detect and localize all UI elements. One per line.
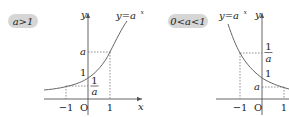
svg-text:a: a xyxy=(92,86,98,97)
y-tick-a-left: a xyxy=(80,46,86,57)
condition-badge-left: a>1 xyxy=(8,14,38,28)
y-tick-1-left: 1 xyxy=(80,67,86,78)
condition-badge-right: 0<a<1 xyxy=(168,14,208,28)
svg-text:x: x xyxy=(244,8,248,15)
y-axis-label-right: y xyxy=(254,9,261,20)
x-tick-1-left: 1 xyxy=(107,102,113,113)
function-label-left: y=a x xyxy=(115,8,145,21)
condition-label-right: 0<a<1 xyxy=(170,16,205,27)
origin-label-left: O xyxy=(80,102,88,113)
svg-text:x: x xyxy=(141,8,145,15)
y-tick-inv-a-left: 1 a xyxy=(91,75,99,97)
x-tick-minus1-left: −1 xyxy=(59,102,74,113)
x-tick-minus1-right: −1 xyxy=(233,102,248,113)
curve-decreasing xyxy=(228,24,289,89)
right-graph: 0<a<1 y=a x y 1 a 1 a −1 O 1 xyxy=(168,8,289,115)
svg-text:1: 1 xyxy=(91,75,97,86)
x-axis-label-left: x xyxy=(138,101,144,112)
y-tick-1-right: 1 xyxy=(265,68,271,79)
x-tick-1-right: 1 xyxy=(281,102,287,113)
origin-label-right: O xyxy=(254,102,262,113)
exponential-graphs-diagram: a>1 y x y=a x a 1 1 a −1 O 1 xyxy=(0,0,289,117)
svg-text:1: 1 xyxy=(265,41,271,52)
svg-text:y=a: y=a xyxy=(115,10,136,21)
function-label-right: y=a x xyxy=(218,8,248,21)
condition-label-left: a>1 xyxy=(13,16,34,27)
svg-text:a: a xyxy=(266,53,272,64)
y-axis-label-left: y xyxy=(80,9,87,20)
y-tick-a-right: a xyxy=(254,81,260,92)
left-graph: a>1 y x y=a x a 1 1 a −1 O 1 xyxy=(8,8,145,115)
svg-text:y=a: y=a xyxy=(218,10,239,21)
y-tick-inv-a-right: 1 a xyxy=(265,41,273,64)
